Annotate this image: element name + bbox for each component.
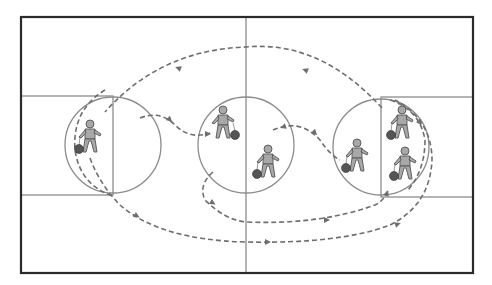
player-figure	[212, 106, 240, 140]
top-arc-pass-path	[105, 46, 382, 112]
arrow-icon	[174, 64, 182, 72]
ball-icon	[342, 164, 351, 173]
arrow-icon	[279, 123, 287, 131]
center-curl-bottom-path	[203, 172, 388, 222]
player-figure	[390, 147, 417, 181]
arrow-icon	[209, 199, 217, 207]
ball-icon	[253, 170, 262, 179]
ball-icon	[390, 172, 399, 181]
ball-icon	[387, 131, 396, 140]
player-figure	[253, 145, 280, 179]
ball-icon	[231, 131, 240, 140]
center-right-hook-path	[273, 126, 340, 160]
lane-right	[381, 97, 473, 197]
court	[21, 17, 473, 273]
players	[75, 106, 417, 181]
arrow-icon	[265, 239, 271, 245]
movement-paths	[75, 46, 432, 245]
arrow-icon	[383, 189, 391, 197]
court-boundary	[21, 17, 473, 273]
drill-diagram	[0, 0, 492, 285]
player-figure	[342, 139, 369, 173]
player-figure	[387, 106, 414, 140]
arrow-icon	[301, 66, 309, 74]
arrow-icon	[205, 131, 211, 137]
ball-icon	[75, 145, 84, 154]
player-figure	[75, 120, 102, 154]
lane-left	[21, 96, 113, 195]
court-canvas	[0, 0, 492, 285]
arrow-icon	[311, 129, 319, 137]
